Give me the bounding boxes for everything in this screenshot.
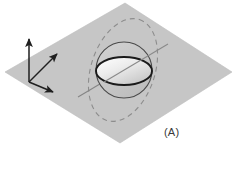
panel-label: (A) <box>164 126 179 138</box>
figure-panel-a: (A) <box>0 0 239 179</box>
tilted-disc <box>96 57 152 85</box>
diagram-canvas <box>0 0 239 179</box>
